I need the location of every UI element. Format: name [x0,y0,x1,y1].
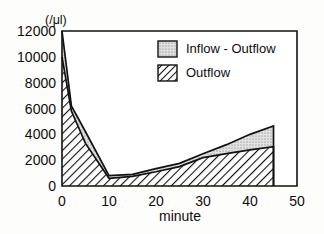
y-tick-label: 0 [48,178,56,194]
chart-canvas: 020004000600080001000012000 01020304050 … [0,0,324,234]
x-tick-label: 50 [289,193,305,209]
y-axis-unit-label: (/μl) [45,13,67,27]
x-tick-label: 40 [242,193,258,209]
y-tick-label: 2000 [25,152,56,168]
chart-figure: 020004000600080001000012000 01020304050 … [0,0,324,234]
x-tick-label: 30 [195,193,211,209]
y-tick-label: 6000 [25,101,56,117]
x-tick-label: 10 [101,193,117,209]
x-axis-title: minute [159,208,201,224]
y-tick-label: 4000 [25,126,56,142]
legend-label-outflow: Outflow [186,65,231,80]
legend-swatch-inflow-minus-outflow [158,41,177,57]
x-axis-tick-labels: 01020304050 [58,193,305,209]
x-tick-label: 0 [58,193,66,209]
x-tick-label: 20 [148,193,164,209]
y-tick-label: 10000 [17,49,56,65]
y-axis-tick-labels: 020004000600080001000012000 [17,23,56,194]
y-tick-label: 8000 [25,75,56,91]
legend-label-inflow-minus-outflow: Inflow - Outflow [186,41,276,56]
legend-swatch-outflow [158,65,177,81]
